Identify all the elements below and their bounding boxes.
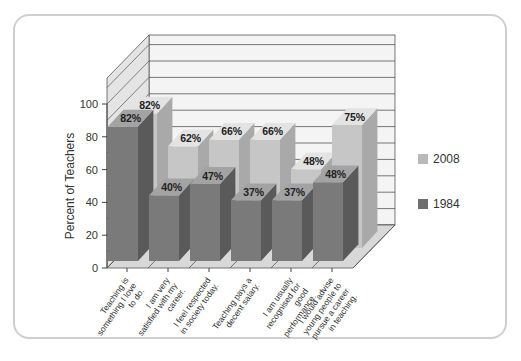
bar-value-label: 66% <box>221 125 243 137</box>
y-tick-label: 20 <box>86 229 98 241</box>
bar-value-label: 47% <box>202 170 224 182</box>
bar-value-label: 66% <box>262 125 284 137</box>
bar-value-label: 40% <box>161 181 183 193</box>
legend-item-1984: 1984 <box>418 197 460 211</box>
bar-value-label: 48% <box>303 155 325 167</box>
y-tick-label: 40 <box>86 196 98 208</box>
x-category-label: I am verysatisfied with mycareer. <box>128 275 188 343</box>
bar: 47% <box>190 167 235 261</box>
y-tick-label: 100 <box>80 98 98 110</box>
bar: 37% <box>272 184 317 261</box>
legend-label-2008: 2008 <box>433 152 460 166</box>
bar: 37% <box>231 184 276 261</box>
legend-item-2008: 2008 <box>418 152 460 166</box>
bar-value-label: 48% <box>325 168 347 180</box>
legend-label-1984: 1984 <box>433 197 460 211</box>
legend-swatch-2008 <box>418 154 428 164</box>
y-tick-label: 60 <box>86 164 98 176</box>
y-tick-label: 80 <box>86 131 98 143</box>
legend-swatch-1984 <box>418 199 428 209</box>
bar-value-label: 37% <box>284 186 306 198</box>
bar-value-label: 82% <box>139 99 161 111</box>
x-category-label: I would adviseyoung people topursue a ca… <box>293 275 359 347</box>
bar: 82% <box>108 110 153 261</box>
bar-value-label: 82% <box>120 112 142 124</box>
bar-value-label: 62% <box>180 132 202 144</box>
x-axis-labels: Teaching issomething I loveto do.I am ve… <box>87 268 359 347</box>
bar-value-label: 75% <box>344 111 366 123</box>
y-axis-label: Percent of Teachers <box>63 133 77 240</box>
bar: 40% <box>149 179 194 261</box>
bar-value-label: 37% <box>243 186 265 198</box>
bar-chart-3d: 82%62%66%66%48%75%82%40%47%37%37%48% 020… <box>0 0 521 361</box>
y-tick-label: 0 <box>92 262 98 274</box>
bar: 48% <box>313 165 358 261</box>
y-axis: 020406080100Percent of Teachers <box>63 98 107 274</box>
x-category-label: Teaching pays adecent salary. <box>210 275 261 337</box>
